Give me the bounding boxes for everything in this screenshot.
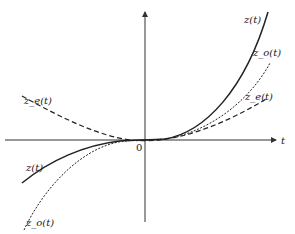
label-z-right: z(t) [243, 14, 261, 25]
origin-label: 0 [136, 142, 142, 153]
label-ze-right: z_e(t) [244, 91, 273, 103]
curve-z-even [22, 96, 266, 141]
label-ze-left: z_e(t) [23, 95, 52, 107]
x-axis-label: t [281, 135, 286, 146]
label-zo-right: z_o(t) [252, 47, 281, 59]
signal-decomposition-diagram: t 0 z(t) z_o(t) z_e(t) z_e(t) z(t) z_o(t… [0, 0, 295, 234]
label-z-left: z(t) [25, 162, 43, 173]
label-zo-left: z_o(t) [25, 217, 54, 229]
